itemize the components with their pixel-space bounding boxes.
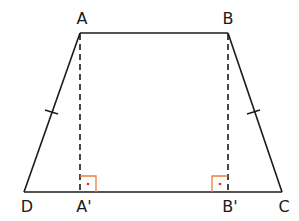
foot-label-b-prime: B' xyxy=(222,199,237,215)
right-angle-dot-b-prime xyxy=(219,183,222,186)
segment-bc xyxy=(228,33,282,192)
vertex-label-c: C xyxy=(278,199,289,215)
foot-label-a-prime: A' xyxy=(76,199,91,215)
vertex-label-a: A xyxy=(77,11,88,27)
trapezoid-diagram xyxy=(0,0,299,221)
vertex-label-b: B xyxy=(223,11,234,27)
vertex-label-d: D xyxy=(21,199,33,215)
tick-mark-bc xyxy=(247,110,260,114)
right-angle-dot-a-prime xyxy=(87,183,90,186)
